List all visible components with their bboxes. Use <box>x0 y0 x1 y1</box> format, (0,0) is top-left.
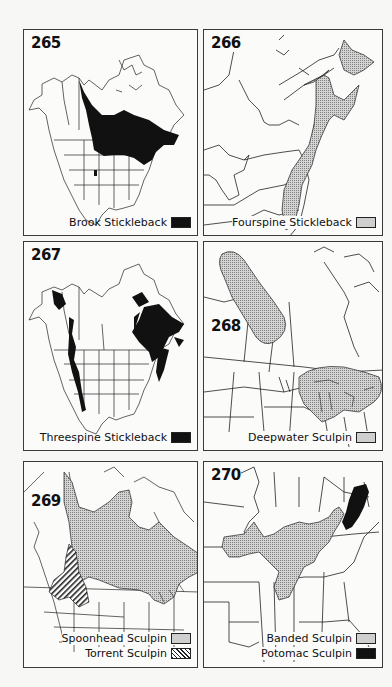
legend: Threespine Stickleback <box>40 431 191 444</box>
legend-label-threespine-stickleback: Threespine Stickleback <box>40 431 167 444</box>
north-america-map <box>24 30 198 236</box>
map-panel-269: 269 Spoonhead Sculpin Torrent Sculpin <box>23 461 198 668</box>
legend-row-2: Potomac Sculpin <box>261 647 376 660</box>
solid-black-swatch-icon <box>356 648 376 659</box>
diagonal-hatch-swatch-icon <box>171 648 191 659</box>
brook-stickleback-range <box>79 80 179 165</box>
legend-label-spoonhead-sculpin: Spoonhead Sculpin <box>62 632 167 645</box>
map-panel-268: 268 Deepwater Sculpin <box>203 241 383 451</box>
potomac-sculpin-range <box>342 484 369 530</box>
northeast-map <box>204 30 383 236</box>
legend: Fourspine Stickleback <box>232 216 376 229</box>
legend-row-2: Torrent Sculpin <box>85 647 191 660</box>
legend-row-1: Banded Sculpin <box>266 632 376 645</box>
stipple-swatch-icon <box>356 633 376 644</box>
central-canada-great-lakes-map <box>204 242 383 451</box>
north-america-map <box>24 242 198 451</box>
map-panel-270: 270 Banded Sculpin Potomac Sculpin <box>203 461 383 668</box>
panel-number: 270 <box>211 466 241 484</box>
legend-label-brook-stickleback: Brook Stickleback <box>69 216 167 229</box>
panel-number: 269 <box>31 492 61 510</box>
legend-label-fourspine-stickleback: Fourspine Stickleback <box>232 216 352 229</box>
legend-label-potomac-sculpin: Potomac Sculpin <box>261 647 352 660</box>
legend-label-banded-sculpin: Banded Sculpin <box>266 632 352 645</box>
deepwater-sculpin-range <box>219 252 381 422</box>
legend: Deepwater Sculpin <box>248 431 376 444</box>
solid-black-swatch-icon <box>171 217 191 228</box>
panel-number: 268 <box>211 317 241 335</box>
fourspine-stickleback-range <box>282 40 374 230</box>
map-panel-265: 265 Brook Stickleback <box>23 29 198 236</box>
legend-label-deepwater-sculpin: Deepwater Sculpin <box>248 431 352 444</box>
legend: Brook Stickleback <box>69 216 191 229</box>
map-panel-267: 267 Threespine Stickleback <box>23 241 198 451</box>
banded-sculpin-range <box>222 507 344 600</box>
solid-black-swatch-icon <box>171 432 191 443</box>
map-panel-266: 266 Fourspine Stickleback <box>203 29 383 236</box>
panel-number: 267 <box>31 246 61 264</box>
stipple-swatch-icon <box>356 217 376 228</box>
panel-number: 265 <box>31 34 61 52</box>
panel-number: 266 <box>211 34 241 52</box>
stipple-swatch-icon <box>356 432 376 443</box>
legend-row-1: Spoonhead Sculpin <box>62 632 191 645</box>
legend-label-torrent-sculpin: Torrent Sculpin <box>85 647 167 660</box>
stipple-swatch-icon <box>171 633 191 644</box>
